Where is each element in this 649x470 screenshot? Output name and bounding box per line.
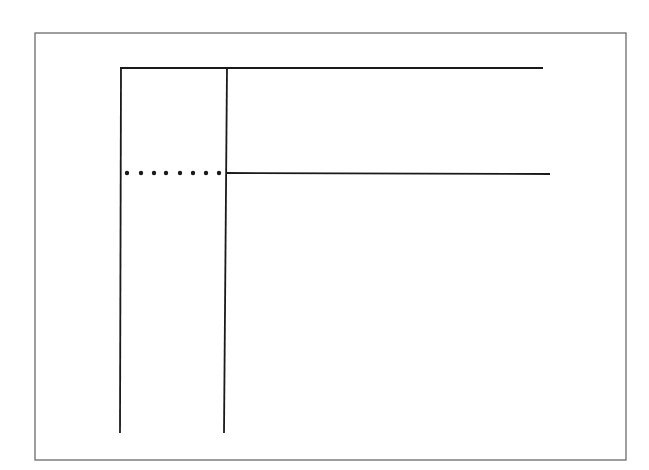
dot xyxy=(217,171,221,175)
dot xyxy=(191,171,195,175)
dot xyxy=(139,171,143,175)
diagram-lines xyxy=(120,68,550,433)
outer-frame xyxy=(35,33,626,460)
left-vertical-line xyxy=(120,68,121,433)
dot xyxy=(178,171,182,175)
dot xyxy=(164,171,168,175)
dot xyxy=(152,171,156,175)
inner-vertical-line xyxy=(224,68,227,433)
dotted-connector xyxy=(125,171,221,175)
dot xyxy=(204,171,208,175)
middle-horizontal-line xyxy=(226,173,550,174)
line-diagram xyxy=(0,0,649,470)
dot xyxy=(125,171,129,175)
